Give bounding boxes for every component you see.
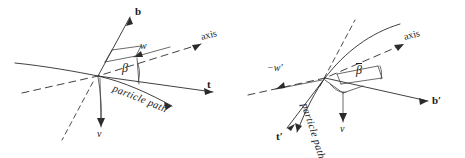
left-bracket-segment-b bbox=[112, 46, 141, 50]
right-tangent-arrowhead bbox=[287, 124, 295, 131]
left-axis-arrowhead bbox=[192, 44, 201, 51]
right-w-vector-arrowhead bbox=[276, 82, 285, 89]
right-beta-label: β bbox=[356, 63, 362, 76]
right-binormal-arrowhead bbox=[419, 98, 428, 105]
right-w-label: −w′ bbox=[267, 63, 283, 73]
left-w-label: w bbox=[140, 41, 147, 51]
right-binormal-label: b′ bbox=[432, 95, 441, 106]
left-binormal-label: b bbox=[135, 6, 141, 17]
right-particle-path-arrowhead bbox=[295, 123, 302, 132]
left-beta-tick bbox=[137, 58, 139, 84]
left-beta-label: β bbox=[122, 62, 128, 74]
right-v-label: v bbox=[340, 124, 344, 134]
right-v-vector-arrowhead bbox=[339, 113, 347, 122]
left-right-angle-bracket bbox=[105, 50, 112, 62]
left-v-label: v bbox=[97, 129, 101, 139]
right-tangent-label: t′ bbox=[276, 131, 283, 142]
right-binormal-line bbox=[325, 78, 428, 101]
left-panel-geometry bbox=[15, 17, 213, 140]
left-construction-dashed-ray bbox=[62, 82, 93, 140]
diagram-vectors bbox=[0, 0, 465, 158]
figure-canvas: b w axis β particle path t v −w′ axis β … bbox=[0, 0, 465, 158]
left-bracket-segment-a bbox=[105, 56, 136, 62]
right-beta-bracket-b bbox=[341, 78, 382, 84]
right-beta-bracket-c bbox=[337, 74, 341, 84]
left-tangent-label: t bbox=[207, 79, 211, 90]
right-panel-geometry bbox=[248, 20, 428, 132]
